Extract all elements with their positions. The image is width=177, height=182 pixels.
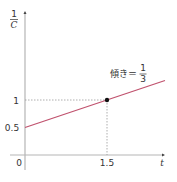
y-tick-1: 1 xyxy=(13,96,19,106)
ylabel-numerator: 1 xyxy=(11,9,17,19)
ylabel-denominator: C xyxy=(11,20,18,30)
data-line xyxy=(25,81,165,128)
slope-denominator: 3 xyxy=(140,74,146,84)
xlabel: t xyxy=(160,158,164,168)
x-axis-arrow-icon xyxy=(162,154,165,157)
slope-numerator: 1 xyxy=(140,63,146,73)
y-axis-arrow-icon xyxy=(24,11,27,14)
slope-annotation: 傾き＝ xyxy=(110,68,137,79)
x-tick-1.5: 1.5 xyxy=(100,158,114,168)
y-tick-0.5: 0.5 xyxy=(5,123,19,133)
chart: 1 C 1 0.5 0 1.5 t 傾き＝ 1 3 xyxy=(0,0,177,182)
origin-label: 0 xyxy=(16,158,22,168)
highlight-point xyxy=(105,98,109,102)
